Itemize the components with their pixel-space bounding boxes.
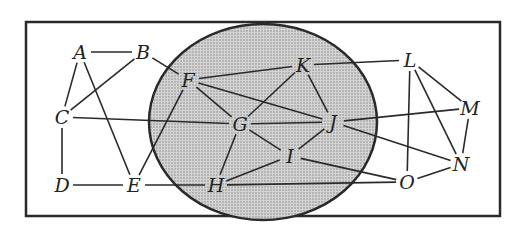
node-L: L: [403, 49, 417, 71]
node-E: E: [126, 174, 141, 196]
edge-A-C: [65, 63, 77, 107]
edge-L-O: [407, 71, 409, 171]
node-A: A: [71, 41, 87, 63]
node-O: O: [399, 171, 415, 193]
node-K: K: [295, 54, 312, 76]
node-H: H: [207, 174, 225, 196]
node-D: D: [53, 174, 69, 196]
edge-L-N: [415, 70, 456, 154]
edge-M-N: [463, 119, 469, 153]
edge-L-M: [419, 67, 462, 101]
edge-B-C: [71, 59, 135, 110]
node-C: C: [55, 106, 70, 128]
node-N: N: [452, 153, 471, 175]
node-G: G: [232, 113, 247, 135]
node-B: B: [135, 41, 150, 63]
edge-N-O: [417, 167, 450, 178]
node-F: F: [180, 69, 195, 91]
node-M: M: [459, 97, 480, 119]
node-I: I: [285, 145, 294, 167]
graph-diagram: ABCDEFGHIJKLMNO: [0, 0, 528, 233]
